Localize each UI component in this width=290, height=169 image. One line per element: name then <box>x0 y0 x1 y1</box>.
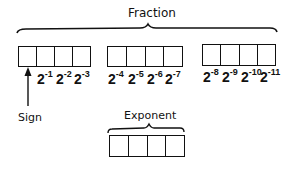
fraction-brace <box>17 24 277 33</box>
fraction-group-3 <box>202 44 276 66</box>
power-label: 2-2 <box>56 72 72 86</box>
exponent-label: Exponent <box>124 109 176 122</box>
power-label: 2-4 <box>108 72 124 86</box>
bit-cell <box>258 45 275 65</box>
power-label: 2-9 <box>222 70 238 84</box>
power-label: 2-5 <box>128 72 144 86</box>
sign-label: Sign <box>18 111 42 124</box>
bit-cell <box>240 45 258 65</box>
exponent-group <box>109 135 185 157</box>
exponent-bit-cell <box>110 136 129 156</box>
power-label: 2-6 <box>147 72 163 86</box>
bit-cell <box>164 47 182 66</box>
fraction-group-1 <box>18 46 91 67</box>
bit-cell <box>127 47 146 66</box>
power-label: 2-1 <box>37 72 53 86</box>
sign-arrow-head <box>25 67 32 76</box>
exponent-brace <box>108 124 184 133</box>
power-label: 2-8 <box>203 70 219 84</box>
bit-cell <box>108 47 127 66</box>
power-label: 2-7 <box>165 72 181 86</box>
sign-bit-cell <box>19 47 37 66</box>
fraction-label: Fraction <box>128 6 176 20</box>
bit-cell <box>146 47 165 66</box>
exponent-bit-cell <box>148 136 167 156</box>
power-label: 2-3 <box>74 72 90 86</box>
power-label: 2-11 <box>260 70 280 84</box>
fraction-group-2 <box>107 46 183 67</box>
bit-cell <box>203 45 221 65</box>
bit-cell <box>221 45 239 65</box>
power-label: 2-10 <box>241 70 262 84</box>
exponent-bit-cell <box>166 136 184 156</box>
bit-cell <box>73 47 90 66</box>
bit-cell <box>37 47 55 66</box>
exponent-bit-cell <box>129 136 148 156</box>
bit-cell <box>55 47 73 66</box>
